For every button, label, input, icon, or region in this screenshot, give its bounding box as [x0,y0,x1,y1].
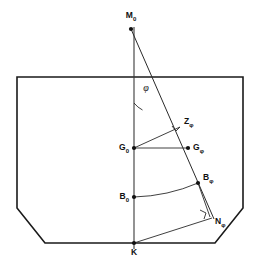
label-gphi: Gφ [193,142,205,153]
node-dot-k [132,241,136,245]
label-g0: G0 [119,142,130,153]
label-m0: M0 [126,10,137,21]
heel-angle-arc [134,103,143,110]
node-dot-gphi [186,146,190,150]
segment-g0-zphi [134,127,180,148]
stability-diagram-canvas: M0 Zφ G0 Gφ Bφ B0 Nφ K φ [0,0,259,260]
right-angle-marker-nphi [200,210,206,219]
segment-k-nphi [134,218,212,243]
stability-diagram: M0 Zφ G0 Gφ Bφ B0 Nφ K φ [0,0,259,260]
inclined-axis-line [131,29,214,219]
node-dot-m0 [129,27,133,31]
node-dot-bphi [196,181,200,185]
label-zphi: Zφ [184,116,194,127]
ship-hull-outline [17,77,243,243]
node-dot-b0 [132,195,136,199]
node-dot-g0 [132,146,136,150]
label-b0: B0 [120,191,130,202]
label-heel-angle-phi: φ [143,82,149,93]
label-nphi: Nφ [215,216,226,227]
buoyancy-locus-arc [134,183,198,197]
label-k: K [131,247,138,257]
label-bphi: Bφ [203,172,214,183]
